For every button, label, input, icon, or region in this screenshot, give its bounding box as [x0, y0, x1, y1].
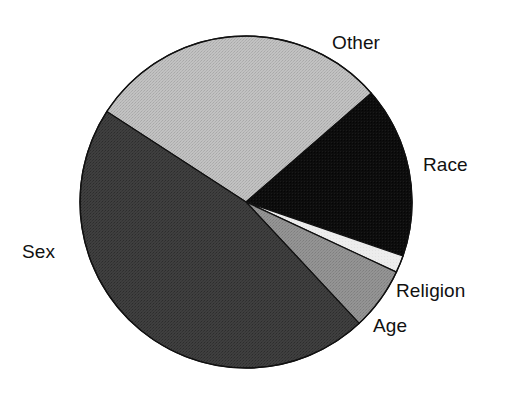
pie-label-other: Other — [332, 33, 380, 52]
pie-label-religion: Religion — [396, 281, 465, 300]
pie-label-race: Race — [423, 155, 468, 174]
pie-chart-svg — [0, 0, 518, 398]
pie-label-sex: Sex — [22, 242, 55, 261]
pie-label-age: Age — [373, 316, 407, 335]
pie-chart-figure: Other Race Religion Age Sex — [0, 0, 518, 398]
